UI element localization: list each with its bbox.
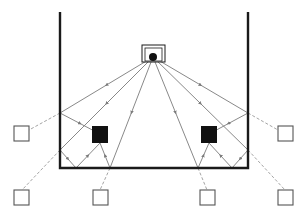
obstacles [92,126,217,143]
virtual-node-right-wall-upper [278,126,293,141]
ray-3 [60,150,76,168]
ray-7 [153,57,248,113]
virtual-node-bottom-mid-right [200,190,215,205]
room-walls [60,12,248,168]
ray-5 [110,57,153,168]
virtual-node-left-wall-upper [14,126,29,141]
obstacle-left [92,126,108,143]
dashed-path-0 [29,113,60,130]
virtual-node-bottom-mid-left [93,190,108,205]
ray-10 [232,150,248,168]
room-outline [60,12,248,168]
dashed-path-3 [100,168,110,190]
ray-11 [209,143,232,168]
virtual-node-bottom-far-right [278,190,293,205]
dashed-path-4 [198,168,207,190]
rays [60,57,248,168]
ray-6 [100,143,110,168]
obstacle-right [201,126,217,143]
ray-13 [198,143,209,168]
dashed-path-5 [248,150,285,190]
dashed-path-2 [22,150,60,190]
multipath-diagram [0,0,302,215]
virtual-node-bottom-far-left [14,190,29,205]
virtual-nodes [14,126,293,205]
ray-0 [60,57,153,113]
transmitter-dot [149,53,157,61]
dashed-path-1 [248,113,278,130]
ray-4 [76,143,100,168]
ray-12 [153,57,198,168]
transmitter [142,45,165,62]
ray-9 [153,57,248,150]
